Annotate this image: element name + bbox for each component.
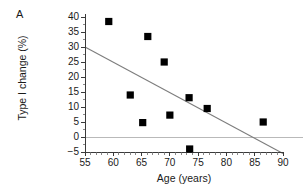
regression-line-segment	[85, 47, 283, 154]
data-point-marker	[127, 91, 134, 98]
data-point-marker	[185, 94, 192, 101]
data-point-marker	[161, 58, 168, 65]
data-point-marker	[260, 118, 267, 125]
figure-panel: A Type I change (%) Age (years) −5051015…	[0, 0, 306, 192]
data-point-marker	[105, 18, 112, 25]
scatter-plot-canvas	[0, 0, 306, 192]
data-point-marker	[144, 33, 151, 40]
data-point-marker	[166, 112, 173, 119]
data-point-marker	[139, 119, 146, 126]
data-point-marker	[186, 145, 193, 152]
data-point-marker	[204, 105, 211, 112]
regression-line	[85, 47, 283, 154]
data-markers	[105, 18, 267, 153]
axes	[81, 14, 283, 156]
